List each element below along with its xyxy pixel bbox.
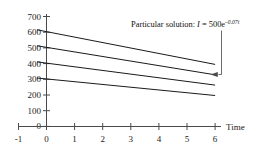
x-axis-tick-labels: -1 0 1 2 3 4 5 6: [15, 134, 218, 144]
annotation-coefficient: 500e: [209, 20, 226, 29]
chart-series-group: [37, 30, 215, 96]
series-line-600: [37, 30, 215, 65]
series-line-400: [37, 62, 215, 85]
chart-plot-area: 700 600 500 400 300 200 100 0 -1 0 1: [0, 0, 271, 166]
y-tick-label-700: 700: [28, 12, 42, 22]
y-tick-label-400: 400: [28, 59, 42, 69]
x-tick-label-neg1: -1: [15, 134, 23, 144]
annotation-label: Particular solution: I = 500e–0.07t: [131, 19, 240, 29]
x-tick-label-5: 5: [185, 134, 190, 144]
annotation-exponent: –0.07t: [224, 19, 240, 25]
annotation-prefix: Particular solution:: [131, 20, 195, 29]
x-tick-label-3: 3: [129, 134, 134, 144]
series-line-300: [37, 78, 215, 96]
annotation-leader-line: [211, 31, 222, 78]
annotation-arrowhead: [211, 72, 218, 77]
y-tick-label-600: 600: [28, 27, 42, 37]
y-tick-label-200: 200: [28, 90, 42, 100]
series-line-500: [37, 46, 215, 75]
x-axis-label: Time: [226, 122, 245, 132]
chart-figure: 700 600 500 400 300 200 100 0 -1 0 1: [0, 0, 271, 166]
y-tick-label-500: 500: [28, 43, 42, 53]
x-tick-label-0: 0: [44, 134, 49, 144]
x-tick-label-6: 6: [213, 134, 218, 144]
x-tick-label-1: 1: [72, 134, 77, 144]
x-tick-label-2: 2: [100, 134, 105, 144]
y-tick-label-100: 100: [28, 106, 42, 116]
x-tick-label-4: 4: [157, 134, 162, 144]
y-axis-tick-labels: 700 600 500 400 300 200 100 0: [28, 12, 42, 132]
y-tick-label-300: 300: [28, 74, 42, 84]
